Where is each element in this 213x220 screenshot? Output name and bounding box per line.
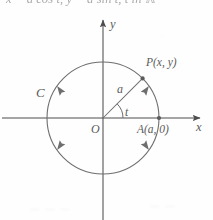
point-p-label: P(x, y) [145, 56, 177, 69]
point-p-marker [141, 76, 145, 80]
circle-diagram: y x P(x, y) A(a, 0) O a t C [0, 0, 213, 220]
axes-group [2, 20, 200, 220]
point-a-marker [157, 116, 161, 120]
parametric-circle-figure: x = a cos t, y = a sin t, t in ℝ [0, 0, 213, 220]
angle-label: t [125, 106, 129, 118]
point-a-label: A(a, 0) [136, 123, 169, 136]
angle-arc-t [117, 104, 123, 118]
y-axis-label: y [108, 17, 116, 31]
direction-arrowhead-lower-left [54, 140, 65, 152]
scan-bleed-bottom-left: — — — [30, 203, 72, 213]
origin-label: O [91, 122, 100, 136]
scan-bleed-bottom-right: — — [150, 200, 176, 210]
direction-arrowhead-upper-left [54, 84, 65, 96]
scan-bleed-top-right: · [160, 30, 165, 40]
curve-label: C [36, 85, 45, 100]
direction-arrowhead-lower-right [141, 140, 152, 152]
radius-label: a [117, 82, 123, 96]
direction-arrowhead-upper-right [141, 84, 152, 96]
x-axis-label: x [195, 120, 202, 134]
